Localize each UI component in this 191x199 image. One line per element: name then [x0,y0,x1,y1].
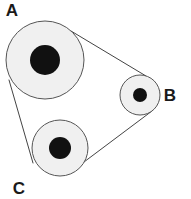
pulley-label-a: A [6,1,18,20]
pulley-label-b: B [164,86,176,105]
belt-segment-b-to-c [80,111,152,165]
pulley-diagram: A B C [0,0,191,199]
pulley-c-hub [49,137,71,159]
pulley-c [32,120,88,176]
pulley-b-hub [133,88,147,102]
pulley-a [6,21,84,99]
pulley-label-c: C [13,179,25,198]
pulley-b [120,75,160,115]
pulley-a-hub [30,45,60,75]
pulley-diagram-canvas: A B C [0,0,191,199]
